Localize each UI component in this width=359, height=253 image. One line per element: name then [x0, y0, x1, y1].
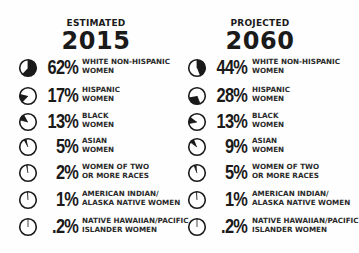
column-header: PROJECTED 2060 [176, 18, 344, 54]
category-label: BLACK WOMEN [252, 112, 284, 129]
category-label: BLACK WOMEN [82, 112, 114, 129]
list-item: 5%WOMEN OF TWO OR MORE RACES [170, 162, 348, 186]
category-label: AMERICAN INDIAN/ ALASKA NATIVE WOMEN [82, 190, 180, 207]
percentage-value: 13% [200, 109, 247, 133]
list-item: 1%AMERICAN INDIAN/ ALASKA NATIVE WOMEN [0, 189, 178, 213]
percentage-value: 5% [200, 160, 247, 184]
list-item: 44%WHITE NON-HISPANIC WOMEN [170, 57, 348, 81]
projected-2060-column: PROJECTED 2060 44%WHITE NON-HISPANIC WOM… [170, 0, 348, 253]
list-item: .2%NATIVE HAWAIIAN/PACIFIC ISLANDER WOME… [170, 216, 348, 240]
list-item: 62%WHITE NON-HISPANIC WOMEN [0, 57, 178, 81]
list-item: 1%AMERICAN INDIAN/ ALASKA NATIVE WOMEN [170, 189, 348, 213]
percentage-value: 28% [200, 83, 247, 107]
category-label: HISPANIC WOMEN [82, 86, 120, 103]
category-label: HISPANIC WOMEN [252, 86, 290, 103]
list-item: 5%ASIAN WOMEN [0, 136, 178, 160]
percentage-value: .2% [200, 214, 247, 238]
list-item: 28%HISPANIC WOMEN [170, 85, 348, 109]
list-item: 17%HISPANIC WOMEN [0, 85, 178, 109]
percentage-value: 44% [200, 55, 247, 79]
percentage-value: 62% [31, 55, 78, 79]
column-year: 2060 [176, 28, 344, 54]
percentage-value: 13% [31, 109, 78, 133]
list-item: 9%ASIAN WOMEN [170, 136, 348, 160]
percentage-value: 2% [31, 160, 78, 184]
percentage-value: 5% [31, 134, 78, 158]
column-year: 2015 [12, 28, 180, 54]
category-label: WHITE NON-HISPANIC WOMEN [82, 58, 170, 75]
list-item: .2%NATIVE HAWAIIAN/PACIFIC ISLANDER WOME… [0, 216, 178, 240]
category-label: ASIAN WOMEN [82, 137, 114, 154]
list-item: 13%BLACK WOMEN [170, 111, 348, 135]
percentage-value: 1% [31, 187, 78, 211]
percentage-value: .2% [31, 214, 78, 238]
column-header: ESTIMATED 2015 [12, 18, 180, 54]
percentage-value: 1% [200, 187, 247, 211]
category-label: WHITE NON-HISPANIC WOMEN [252, 58, 340, 75]
category-label: ASIAN WOMEN [252, 137, 284, 154]
list-item: 13%BLACK WOMEN [0, 111, 178, 135]
category-label: WOMEN OF TWO OR MORE RACES [252, 163, 319, 180]
category-label: WOMEN OF TWO OR MORE RACES [82, 163, 149, 180]
estimated-2015-column: ESTIMATED 2015 62%WHITE NON-HISPANIC WOM… [0, 0, 178, 253]
category-label: AMERICAN INDIAN/ ALASKA NATIVE WOMEN [252, 190, 350, 207]
list-item: 2%WOMEN OF TWO OR MORE RACES [0, 162, 178, 186]
category-label: NATIVE HAWAIIAN/PACIFIC ISLANDER WOMEN [252, 217, 359, 234]
percentage-value: 9% [200, 134, 247, 158]
percentage-value: 17% [31, 83, 78, 107]
